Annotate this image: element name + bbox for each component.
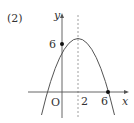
y-tick-6-label: 6 <box>49 38 56 51</box>
y-intercept-point <box>60 42 64 46</box>
parabola-diagram: (2) y 6 O 2 6 x <box>0 0 134 123</box>
x-axis-arrow-icon <box>124 90 129 94</box>
x-intercept-point <box>106 90 110 94</box>
problem-label: (2) <box>7 12 23 25</box>
y-axis-arrow-icon <box>60 13 64 18</box>
graph-canvas: (2) y 6 O 2 6 x <box>0 0 134 123</box>
y-axis-label: y <box>53 9 61 22</box>
x-axis-label: x <box>122 95 129 108</box>
x-tick-6-label: 6 <box>101 95 108 108</box>
origin-label: O <box>51 96 60 109</box>
x-tick-2-label: 2 <box>81 95 88 108</box>
